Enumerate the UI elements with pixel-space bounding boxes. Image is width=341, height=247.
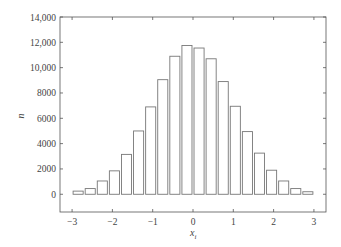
x-tick-label: −1 (148, 217, 158, 227)
histogram-bar (291, 189, 301, 195)
x-tick-label: −3 (67, 217, 77, 227)
x-axis-label: xi (189, 227, 196, 241)
y-tick-label: 12,000 (30, 38, 56, 48)
histogram-bar (206, 59, 216, 194)
histogram-bar (158, 80, 168, 195)
histogram-bar (85, 189, 95, 195)
x-tick-label: 1 (231, 217, 236, 227)
y-tick-label: 14,000 (30, 13, 56, 23)
histogram-bar (170, 56, 180, 194)
y-tick-label: 4000 (37, 139, 56, 149)
y-tick-label: 8000 (37, 88, 56, 98)
y-tick-label: 6000 (37, 114, 56, 124)
histogram-bar (146, 107, 156, 194)
histogram-bar (279, 181, 289, 194)
y-tick-label: 2000 (37, 164, 56, 174)
y-tick-label: 10,000 (30, 63, 56, 73)
histogram-bar (230, 106, 240, 194)
histogram-bar (303, 192, 313, 195)
histogram-bar (194, 48, 204, 194)
histogram-chart: −3−2−10123 0200040006000800010,00012,000… (0, 0, 341, 247)
histogram-bar (73, 191, 83, 194)
histogram-bar (97, 181, 107, 194)
y-axis-label: n (15, 114, 26, 119)
histogram-bar (182, 45, 192, 194)
histogram-bar (267, 170, 277, 194)
histogram-bar (109, 171, 119, 194)
histogram-bar (218, 82, 228, 195)
x-tick-label: 2 (271, 217, 276, 227)
histogram-bar (121, 154, 131, 194)
y-tick-label: 0 (51, 190, 56, 200)
x-tick-label: 0 (191, 217, 196, 227)
bar-series (73, 45, 313, 194)
x-tick-label: 3 (312, 217, 317, 227)
histogram-bar (242, 132, 252, 195)
histogram-bar (254, 153, 264, 194)
histogram-bar (134, 131, 144, 194)
x-tick-label: −2 (107, 217, 117, 227)
